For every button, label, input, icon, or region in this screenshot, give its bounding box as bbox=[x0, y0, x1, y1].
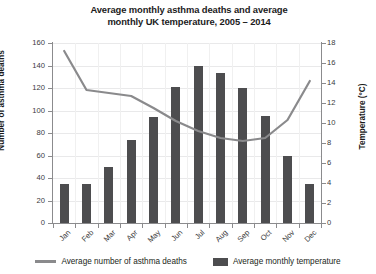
y-axis-left-tick bbox=[48, 133, 52, 134]
y-axis-left-tick bbox=[48, 66, 52, 67]
y-axis-right-tick bbox=[322, 83, 326, 84]
y-axis-right-tick bbox=[322, 43, 326, 44]
y-axis-right-tick-label: 18 bbox=[327, 39, 353, 47]
y-axis-left-tick-label: 0 bbox=[19, 219, 45, 227]
y-axis-right-tick bbox=[322, 183, 326, 184]
y-axis-left-tick-label: 160 bbox=[19, 39, 45, 47]
chart-title-line-1: Average monthly asthma deaths and averag… bbox=[90, 4, 287, 15]
y-axis-right-tick bbox=[322, 203, 326, 204]
y-axis-right-tick-label: 6 bbox=[327, 159, 353, 167]
y-axis-left-tick bbox=[48, 223, 52, 224]
y-axis-left-tick bbox=[48, 156, 52, 157]
y-axis-right-tick-label: 4 bbox=[327, 179, 353, 187]
line-series-path bbox=[64, 51, 310, 141]
y-axis-right-tick-label: 0 bbox=[327, 219, 353, 227]
x-axis-tick bbox=[321, 224, 322, 228]
legend-item-temperature: Average monthly temperature bbox=[213, 257, 341, 266]
y-axis-left-tick bbox=[48, 178, 52, 179]
y-axis-right-tick-label: 10 bbox=[327, 119, 353, 127]
y-axis-right-tick bbox=[322, 103, 326, 104]
y-axis-right-line bbox=[321, 42, 322, 224]
x-axis-tick bbox=[209, 224, 210, 228]
y-axis-right-tick bbox=[322, 143, 326, 144]
y-axis-right-title: Temperature (°C) bbox=[358, 84, 367, 150]
y-axis-left-tick-label: 120 bbox=[19, 84, 45, 92]
x-axis-tick bbox=[232, 224, 233, 228]
square-swatch-icon bbox=[213, 258, 228, 266]
y-axis-right-tick-label: 16 bbox=[327, 59, 353, 67]
y-axis-left-tick bbox=[48, 201, 52, 202]
y-axis-right-tick-label: 2 bbox=[327, 199, 353, 207]
y-axis-left-title: Number of asthma deaths bbox=[0, 50, 6, 151]
y-axis-left-tick bbox=[48, 88, 52, 89]
y-axis-left-tick-label: 40 bbox=[19, 174, 45, 182]
y-axis-left-tick-label: 60 bbox=[19, 152, 45, 160]
x-axis-tick bbox=[254, 224, 255, 228]
x-axis-tick bbox=[299, 224, 300, 228]
chart-title-line-2: monthly UK temperature, 2005 – 2014 bbox=[107, 16, 270, 27]
plot-area bbox=[53, 43, 321, 223]
y-axis-left-tick bbox=[48, 43, 52, 44]
legend-label-asthma-deaths: Average number of asthma deaths bbox=[61, 257, 186, 266]
x-axis-tick bbox=[53, 224, 54, 228]
chart-title: Average monthly asthma deaths and averag… bbox=[48, 4, 330, 27]
legend-item-asthma-deaths: Average number of asthma deaths bbox=[35, 257, 186, 266]
legend-label-temperature: Average monthly temperature bbox=[233, 257, 341, 266]
y-axis-left-tick-label: 80 bbox=[19, 129, 45, 137]
chart-container: Average monthly asthma deaths and averag… bbox=[0, 0, 376, 274]
y-axis-right-tick bbox=[322, 63, 326, 64]
x-axis-tick bbox=[75, 224, 76, 228]
x-axis-tick bbox=[276, 224, 277, 228]
y-axis-left-tick-label: 100 bbox=[19, 107, 45, 115]
line-marker-icon bbox=[35, 260, 56, 262]
y-axis-right-tick bbox=[322, 123, 326, 124]
x-axis-tick bbox=[165, 224, 166, 228]
y-axis-right-tick-label: 12 bbox=[327, 99, 353, 107]
y-axis-left-tick-label: 140 bbox=[19, 62, 45, 70]
line-series bbox=[53, 43, 321, 223]
y-axis-right-tick bbox=[322, 163, 326, 164]
x-axis-tick bbox=[187, 224, 188, 228]
y-axis-right-tick-label: 8 bbox=[327, 139, 353, 147]
x-axis-tick bbox=[142, 224, 143, 228]
chart-legend: Average number of asthma deaths Average … bbox=[0, 257, 376, 266]
x-axis-tick bbox=[120, 224, 121, 228]
x-axis-tick bbox=[98, 224, 99, 228]
y-axis-right-tick bbox=[322, 223, 326, 224]
y-axis-right-tick-label: 14 bbox=[327, 79, 353, 87]
y-axis-left-tick-label: 20 bbox=[19, 197, 45, 205]
y-axis-left-tick bbox=[48, 111, 52, 112]
